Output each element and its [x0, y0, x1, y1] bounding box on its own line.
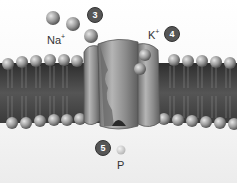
- sodium-label: Na+: [47, 33, 65, 46]
- step-badge-5: 5: [95, 140, 111, 156]
- diagram-canvas: Na+ 3 K+ 4 5 P: [0, 0, 237, 183]
- step-badge-3: 3: [87, 7, 103, 23]
- phosphate-label: P: [117, 160, 124, 171]
- step-badge-4: 4: [164, 26, 180, 42]
- membrane-illustration: [0, 0, 237, 183]
- phosphate-ball: [117, 146, 126, 155]
- pump-protein: [84, 39, 160, 129]
- potassium-label: K+: [148, 28, 159, 41]
